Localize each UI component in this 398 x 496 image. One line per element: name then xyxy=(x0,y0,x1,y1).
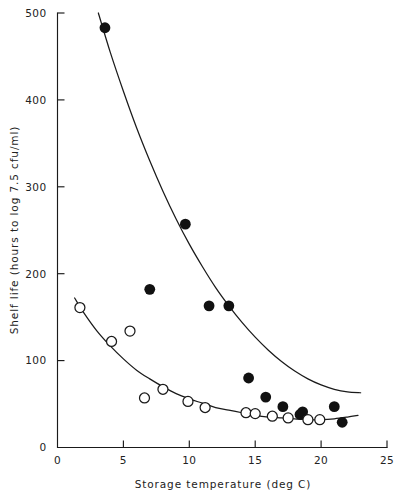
y-tick-label: 0 xyxy=(39,441,46,453)
data-point-closed xyxy=(180,219,191,230)
x-tick-label: 10 xyxy=(182,454,196,466)
tick-labels: 01002003004005000510152025 xyxy=(25,7,394,466)
y-axis-title: Shelf life (hours to log 7.5 cfu/ml) xyxy=(8,126,20,335)
data-point-open xyxy=(183,396,193,406)
data-point-closed xyxy=(337,417,348,428)
data-point-open xyxy=(241,408,251,418)
data-point-open xyxy=(303,415,313,425)
fit-curve-closed xyxy=(98,13,360,393)
data-point-open xyxy=(75,303,85,313)
data-point-open xyxy=(315,415,325,425)
data-point-open xyxy=(125,326,135,336)
data-point-closed xyxy=(329,401,340,412)
data-points xyxy=(75,22,348,427)
data-point-closed xyxy=(204,300,215,311)
axis-group xyxy=(58,13,388,448)
y-tick-label: 200 xyxy=(25,268,46,280)
data-point-closed xyxy=(260,392,271,403)
x-tick-label: 5 xyxy=(120,454,127,466)
scatter-plot-svg: 01002003004005000510152025 Storage tempe… xyxy=(0,0,398,496)
x-tick-label: 15 xyxy=(248,454,262,466)
data-point-open xyxy=(200,403,210,413)
data-point-open xyxy=(158,384,168,394)
y-tick-label: 100 xyxy=(25,354,46,366)
data-point-open xyxy=(139,393,149,403)
fit-curves xyxy=(75,13,361,420)
data-point-closed xyxy=(144,284,155,295)
data-point-open xyxy=(107,336,117,346)
y-tick-label: 500 xyxy=(25,7,46,19)
data-point-closed xyxy=(100,22,111,33)
y-tick-label: 300 xyxy=(25,181,46,193)
data-point-closed xyxy=(243,373,254,384)
data-point-open xyxy=(283,413,293,423)
data-point-closed xyxy=(277,401,288,412)
x-tick-label: 20 xyxy=(314,454,328,466)
chart-figure: 01002003004005000510152025 Storage tempe… xyxy=(0,0,398,496)
data-point-open xyxy=(267,411,277,421)
y-tick-label: 400 xyxy=(25,94,46,106)
fit-curve-open xyxy=(75,298,358,420)
tick-marks xyxy=(58,13,388,448)
x-tick-label: 0 xyxy=(54,454,61,466)
data-point-open xyxy=(250,409,260,419)
data-point-closed xyxy=(223,300,234,311)
x-axis-title: Storage temperature (deg C) xyxy=(135,478,312,490)
axis-lines xyxy=(58,13,388,448)
x-tick-label: 25 xyxy=(380,454,394,466)
